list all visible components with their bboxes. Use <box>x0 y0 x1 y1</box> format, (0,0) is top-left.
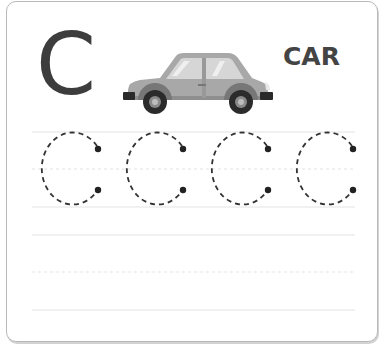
guide-lines-row-2 <box>32 235 355 310</box>
tracing-area <box>0 0 388 349</box>
